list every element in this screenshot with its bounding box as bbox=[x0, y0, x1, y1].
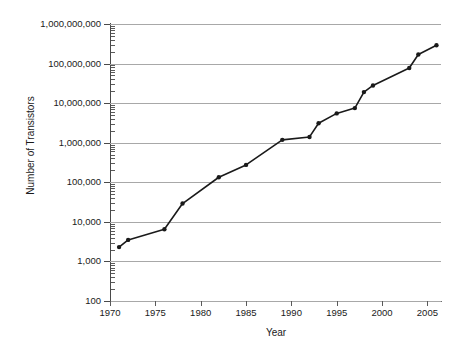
y-axis-minor-tick bbox=[111, 30, 115, 31]
y-axis-minor-tick bbox=[111, 210, 115, 211]
x-axis-tick bbox=[291, 301, 292, 306]
y-axis-minor-tick bbox=[111, 224, 115, 225]
y-axis-minor-tick bbox=[111, 84, 115, 85]
y-axis-minor-tick bbox=[111, 265, 115, 266]
y-axis-minor-tick bbox=[111, 105, 115, 106]
y-axis-tick-label: 100,000,000 bbox=[48, 59, 101, 69]
y-axis-minor-tick bbox=[111, 26, 115, 27]
gridline bbox=[110, 261, 441, 262]
y-axis-minor-tick bbox=[111, 28, 115, 29]
transistor-count-chart: Number of Transistors 1001,00010,000100,… bbox=[0, 0, 457, 353]
x-axis-tick bbox=[201, 301, 202, 306]
y-axis-minor-tick bbox=[111, 186, 115, 187]
y-axis-minor-tick bbox=[111, 40, 115, 41]
y-axis-minor-tick bbox=[111, 119, 115, 120]
y-axis-minor-tick bbox=[111, 107, 115, 108]
y-axis-minor-tick bbox=[111, 238, 115, 239]
gridline bbox=[110, 103, 441, 104]
y-axis-minor-tick bbox=[111, 277, 115, 278]
y-axis-minor-tick bbox=[111, 282, 115, 283]
y-axis-tick bbox=[104, 222, 110, 223]
y-axis-minor-tick bbox=[111, 124, 115, 125]
y-axis-minor-tick bbox=[111, 79, 115, 80]
x-axis-tick bbox=[382, 301, 383, 306]
x-axis-tick bbox=[246, 301, 247, 306]
x-axis-tick bbox=[110, 301, 111, 306]
y-axis-minor-tick bbox=[111, 268, 115, 269]
y-axis-minor-tick bbox=[111, 194, 115, 195]
gridline bbox=[110, 182, 441, 183]
y-axis-tick-labels: 1001,00010,000100,0001,000,00010,000,000… bbox=[0, 0, 101, 353]
y-axis-minor-tick bbox=[111, 36, 115, 37]
y-axis-minor-tick bbox=[111, 52, 115, 53]
y-axis-minor-tick bbox=[111, 67, 115, 68]
y-axis-tick bbox=[104, 64, 110, 65]
y-axis-minor-tick bbox=[111, 203, 115, 204]
x-axis-tick-label: 1975 bbox=[135, 308, 175, 318]
y-axis-minor-tick bbox=[111, 115, 115, 116]
gridline bbox=[110, 24, 441, 25]
x-axis-tick-label: 1985 bbox=[226, 308, 266, 318]
y-axis-minor-tick bbox=[111, 289, 115, 290]
x-axis-tick bbox=[337, 301, 338, 306]
y-axis-minor-tick bbox=[111, 70, 115, 71]
y-axis-minor-tick bbox=[111, 273, 115, 274]
y-axis-minor-tick bbox=[111, 228, 115, 229]
y-axis-minor-tick bbox=[111, 170, 115, 171]
y-axis-minor-tick bbox=[111, 151, 115, 152]
x-axis-tick-label: 2005 bbox=[407, 308, 447, 318]
y-axis-minor-tick bbox=[111, 147, 115, 148]
y-axis-minor-tick bbox=[111, 65, 115, 66]
y-axis-minor-tick bbox=[111, 72, 115, 73]
y-axis-minor-tick bbox=[111, 263, 115, 264]
y-axis-minor-tick bbox=[111, 33, 115, 34]
x-axis-tick-label: 1990 bbox=[271, 308, 311, 318]
y-axis-minor-tick bbox=[111, 155, 115, 156]
y-axis-tick bbox=[104, 182, 110, 183]
gridline bbox=[110, 143, 441, 144]
y-axis-tick-label: 100,000 bbox=[67, 177, 101, 187]
x-axis-tick-label: 1995 bbox=[317, 308, 357, 318]
y-axis-minor-tick bbox=[111, 250, 115, 251]
gridline bbox=[110, 301, 441, 302]
y-axis-tick bbox=[104, 24, 110, 25]
y-axis-minor-tick bbox=[111, 158, 115, 159]
x-axis-tick-label: 1970 bbox=[90, 308, 130, 318]
y-axis-minor-tick bbox=[111, 163, 115, 164]
y-axis-tick-label: 1,000 bbox=[77, 256, 101, 266]
x-axis-tick bbox=[427, 301, 428, 306]
y-axis-minor-tick bbox=[111, 188, 115, 189]
gridline bbox=[110, 222, 441, 223]
y-axis-tick-label: 100 bbox=[85, 296, 101, 306]
y-axis-minor-tick bbox=[111, 243, 115, 244]
y-axis-minor-tick bbox=[111, 231, 115, 232]
y-axis-minor-tick bbox=[111, 270, 115, 271]
plot-area bbox=[110, 24, 441, 301]
x-axis-title: Year bbox=[110, 327, 442, 338]
x-axis-tick-label: 2000 bbox=[362, 308, 402, 318]
y-axis-tick bbox=[104, 143, 110, 144]
y-axis-minor-tick bbox=[111, 226, 115, 227]
y-axis-minor-tick bbox=[111, 234, 115, 235]
y-axis-minor-tick bbox=[111, 91, 115, 92]
x-axis-tick-label: 1980 bbox=[181, 308, 221, 318]
y-axis-minor-tick bbox=[111, 184, 115, 185]
y-axis-minor-tick bbox=[111, 109, 115, 110]
y-axis-tick-label: 1,000,000,000 bbox=[40, 19, 101, 29]
x-axis-tick bbox=[155, 301, 156, 306]
y-axis-minor-tick bbox=[111, 45, 115, 46]
y-axis-minor-tick bbox=[111, 131, 115, 132]
y-axis-minor-tick bbox=[111, 191, 115, 192]
gridline bbox=[110, 64, 441, 65]
y-axis-minor-tick bbox=[111, 75, 115, 76]
y-axis-tick bbox=[104, 261, 110, 262]
y-axis-tick bbox=[104, 103, 110, 104]
y-axis-tick-label: 10,000 bbox=[72, 217, 101, 227]
y-axis-minor-tick bbox=[111, 145, 115, 146]
y-axis-minor-tick bbox=[111, 112, 115, 113]
y-axis-minor-tick bbox=[111, 149, 115, 150]
y-axis-minor-tick bbox=[111, 198, 115, 199]
y-axis-tick-label: 10,000,000 bbox=[53, 98, 101, 108]
y-axis-tick-label: 1,000,000 bbox=[59, 138, 101, 148]
